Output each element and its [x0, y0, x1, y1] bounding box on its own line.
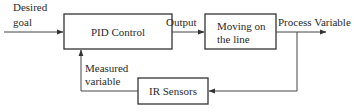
process-variable-label: Process Variable — [278, 16, 351, 28]
pid-block-diagram: Desired goal PID Control Output Moving o… — [0, 0, 354, 112]
output-label: Output — [166, 16, 197, 28]
ir-sensors-block: IR Sensors — [138, 78, 208, 104]
feedback-label-line2: variable — [85, 75, 121, 87]
feedback-label-line1: Measured — [85, 62, 129, 74]
pid-control-label: PID Control — [91, 26, 145, 38]
plant-label-line1: Moving on — [217, 20, 266, 32]
pid-control-block: PID Control — [64, 14, 172, 49]
ir-sensors-label: IR Sensors — [149, 85, 197, 97]
plant-label-line2: the line — [217, 33, 250, 45]
input-label-line1: Desired — [13, 1, 48, 13]
input-label-line2: goal — [13, 16, 32, 28]
plant-block: Moving on the line — [205, 14, 276, 49]
